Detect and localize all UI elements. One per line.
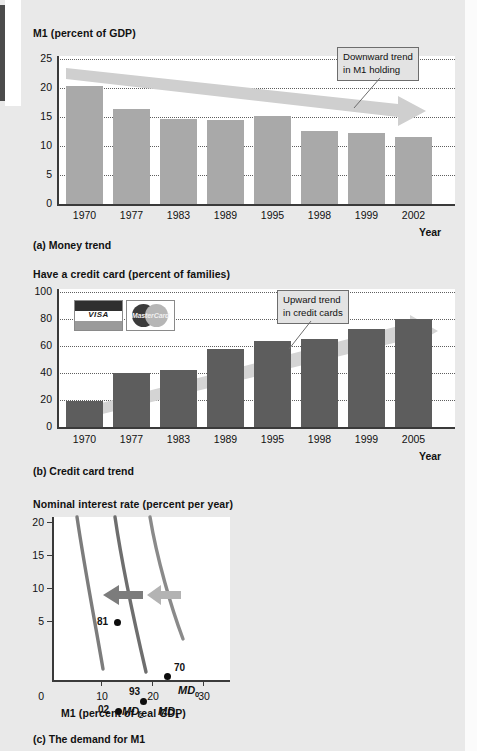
panel-a-xtick-1995: 1995 [249,209,296,221]
panel-a-xtick-1977: 1977 [108,209,155,221]
visa-wordmark: VISA [75,310,122,319]
panel-c-point-81-label: 81 [97,616,108,627]
panel-b-ytick-60: 60 [20,339,52,351]
panel-a-callout-line2: in M1 holding [343,64,413,77]
panel-c-point-70-label: 70 [174,662,185,673]
right-margin [465,0,477,751]
panel-c-point-70 [164,673,171,680]
panel-b-y-axis-title: Have a credit card (percent of families) [33,268,230,280]
figure-page: M1 (percent of GDP) Downward trend in M1… [0,0,477,751]
panel-b-xtick-1995: 1995 [249,433,296,445]
panel-b-callout-leader [285,321,319,351]
panel-c-ytickmark-20 [47,522,53,523]
panel-c-ytick-15: 15 [18,549,44,561]
panel-a-ytick-0: 0 [26,197,52,209]
panel-b-bar-2005 [395,319,432,427]
panel-b-bar-1998 [301,339,338,427]
panel-b-xtick-1977: 1977 [108,433,155,445]
panel-c-xtickmark-30 [203,680,204,686]
panel-c-curves [53,517,230,680]
panel-b-ytick-100: 100 [20,285,52,297]
panel-b-callout-line1: Upward trend [283,294,343,307]
panel-c-ytick-20: 20 [18,516,44,528]
mastercard-logo: MasterCard [126,300,175,331]
panel-a-xtick-2002: 2002 [390,209,437,221]
panel-c-y-axis [52,517,54,681]
panel-b-ytick-0: 0 [20,420,52,432]
panel-c-ytickmark-15 [47,555,53,556]
panel-a-xtick-1983: 1983 [155,209,202,221]
panel-b-x-axis-title: Year [419,450,441,462]
panel-c-xtickmark-20 [152,680,153,686]
panel-c-ytickmark-5 [47,621,53,622]
panel-c-ytick-10: 10 [18,582,44,594]
panel-b-bar-1999 [348,329,385,427]
panel-b-x-axis [57,427,455,429]
panel-b-caption: (b) Credit card trend [33,465,134,477]
panel-b-bar-1989 [207,349,244,427]
panel-b-callout-line2: in credit cards [283,307,343,320]
panel-credit-card-trend: Have a credit card (percent of families)… [0,258,465,488]
panel-b-bar-1995 [254,341,291,427]
panel-c-xtick-20: 20 [140,690,166,702]
panel-a-xtick-1999: 1999 [343,209,390,221]
panel-c-ytick-5: 5 [18,615,44,627]
mastercard-wordmark: MasterCard [127,312,174,319]
visa-bottom-band [75,321,122,330]
panel-a-xtick-1998: 1998 [296,209,343,221]
panel-b-bar-1983 [160,370,197,427]
panel-a-callout: Downward trend in M1 holding [337,47,419,81]
panel-a-ytick-15: 15 [26,110,52,122]
panel-a-ytick-25: 25 [26,52,52,64]
panel-a-bar-2002 [395,137,432,204]
panel-a-ytick-20: 20 [26,81,52,93]
panel-b-y-axis [57,289,59,428]
panel-c-xtickmark-10 [101,680,102,686]
panel-b-callout: Upward trend in credit cards [277,290,349,324]
panel-b-xtick-1970: 1970 [61,433,108,445]
panel-a-y-axis-title: M1 (percent of GDP) [33,27,136,39]
panel-b-xtick-1983: 1983 [155,433,202,445]
panel-b-xtick-2005: 2005 [390,433,437,445]
panel-c-x-axis-title: M1 (percent of real GDP) [61,707,186,719]
panel-b-xtick-1989: 1989 [202,433,249,445]
panel-b-bar-1977 [113,373,150,427]
visa-logo: VISA [74,300,123,331]
panel-demand-for-m1: Nominal interest rate (percent per year)… [0,495,465,751]
panel-a-ytick-5: 5 [26,168,52,180]
panel-money-trend: M1 (percent of GDP) Downward trend in M1… [0,0,465,250]
panel-c-y-axis-title: Nominal interest rate (percent per year) [33,498,233,510]
panel-a-ytick-10: 10 [26,139,52,151]
panel-c-xtick-30: 30 [191,690,217,702]
panel-c-xtick-10: 10 [89,690,115,702]
panel-c-caption: (c) The demand for M1 [33,733,145,745]
panel-a-callout-line1: Downward trend [343,51,413,64]
panel-a-xtick-1970: 1970 [61,209,108,221]
panel-b-xtick-1998: 1998 [296,433,343,445]
panel-c-ytick-0: 0 [18,690,44,702]
panel-c-point-93-label: 93 [129,686,140,697]
panel-a-xtick-1989: 1989 [202,209,249,221]
panel-a-caption: (a) Money trend [33,239,111,251]
panel-a-y-axis [57,56,59,205]
panel-a-callout-leader [350,78,390,110]
panel-b-xtick-1999: 1999 [343,433,390,445]
panel-b-ytick-20: 20 [20,393,52,405]
panel-a-x-axis [57,204,455,206]
panel-a-x-axis-title: Year [419,226,441,238]
panel-b-bar-1970 [66,401,103,427]
panel-c-point-81 [114,619,121,626]
panel-c-ytickmark-10 [47,588,53,589]
panel-b-ytick-80: 80 [20,312,52,324]
panel-b-ytick-40: 40 [20,366,52,378]
